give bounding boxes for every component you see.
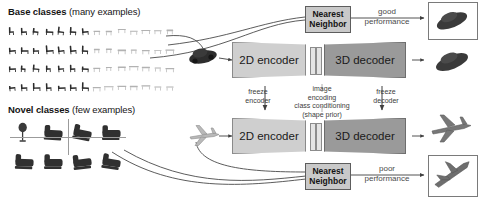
base-class-thumbnail: [79, 58, 91, 76]
base-class-thumbnail: [55, 58, 67, 76]
base-class-thumbnail: [91, 40, 103, 58]
base-class-thumbnail: [116, 58, 128, 76]
base-class-thumbnail: [164, 40, 176, 58]
base-class-thumbnail: [152, 77, 164, 95]
bottom-2d-encoder-box: 2D encoder: [232, 118, 306, 154]
base-classes-label-normal: (many examples): [69, 6, 140, 17]
image-encoding-line1: image: [286, 85, 358, 94]
base-class-thumbnail: [43, 58, 55, 76]
base-class-thumbnail: [79, 21, 91, 39]
base-class-thumbnail: [128, 21, 140, 39]
nearest-neighbor-bottom-line2: Neighbor: [309, 177, 346, 187]
novel-grid-divider-vertical: [68, 119, 69, 155]
base-class-thumbnail: [18, 58, 30, 76]
novel-class-thumbnail: [97, 148, 126, 177]
base-class-thumbnail: [6, 40, 18, 58]
base-class-thumbnail: [67, 21, 79, 39]
nearest-neighbor-top-box: Nearest Neighbor: [305, 6, 351, 33]
freeze-encoder-line2: encoder: [228, 97, 288, 106]
base-class-thumbnail: [103, 40, 115, 58]
class-conditioning-line2: (shape prior): [283, 111, 361, 120]
base-class-thumbnail: [67, 77, 79, 95]
figure-root: Base classes (many examples) Novel class…: [0, 0, 483, 200]
top-3d-decoder-box: 3D decoder: [324, 42, 406, 78]
base-class-thumbnail: [18, 77, 30, 95]
base-class-thumbnail: [116, 77, 128, 95]
base-class-thumbnail: [30, 77, 42, 95]
output-frame-airplane-nn: [428, 155, 478, 197]
freeze-encoder-line1: freeze: [228, 88, 288, 97]
base-class-thumbnail: [103, 77, 115, 95]
poor-performance-line2: performance: [352, 174, 422, 184]
base-class-thumbnail: [103, 58, 115, 76]
image-encoding-line2: encoding: [286, 94, 358, 103]
base-class-thumbnail: [55, 21, 67, 39]
nearest-neighbor-top-line2: Neighbor: [309, 20, 346, 30]
base-class-thumbnail: [91, 58, 103, 76]
novel-class-thumbnail: [68, 148, 97, 177]
novel-class-thumbnail: [39, 119, 68, 148]
output-object-car-decoder: [428, 44, 476, 78]
novel-class-thumbnail: [10, 119, 39, 148]
bottom-2d-encoder-label: 2D encoder: [239, 130, 298, 142]
base-class-thumbnail: [43, 21, 55, 39]
base-classes-grid: [6, 21, 176, 81]
novel-classes-label-normal: (few examples): [72, 104, 135, 115]
base-class-thumbnail: [140, 21, 152, 39]
freeze-decoder-line2: decoder: [356, 97, 416, 106]
top-3d-decoder-label: 3D decoder: [335, 54, 394, 66]
base-class-thumbnail: [55, 40, 67, 58]
base-class-thumbnail: [128, 77, 140, 95]
base-class-thumbnail: [67, 58, 79, 76]
base-class-thumbnail: [164, 58, 176, 76]
base-class-thumbnail: [91, 21, 103, 39]
top-2d-encoder-label: 2D encoder: [239, 54, 298, 66]
top-2d-encoder-box: 2D encoder: [232, 42, 306, 78]
freeze-decoder-annotation: freeze decoder: [356, 88, 416, 105]
novel-classes-heading: Novel classes (few examples): [8, 104, 135, 115]
base-class-thumbnail: [116, 40, 128, 58]
base-class-thumbnail: [30, 21, 42, 39]
base-class-thumbnail: [164, 77, 176, 95]
base-class-thumbnail: [128, 58, 140, 76]
good-performance-line1: good: [352, 7, 422, 17]
base-classes-label-bold: Base classes: [8, 6, 67, 17]
bottom-3d-decoder-box: 3D decoder: [324, 118, 406, 154]
bottom-latent-bar-right: [316, 123, 322, 151]
base-class-thumbnail: [140, 58, 152, 76]
base-class-thumbnail: [6, 21, 18, 39]
nearest-neighbor-bottom-box: Nearest Neighbor: [305, 163, 351, 190]
base-class-thumbnail: [6, 58, 18, 76]
novel-class-thumbnail: [68, 119, 97, 148]
base-class-thumbnail: [43, 77, 55, 95]
input-object-car: [186, 44, 222, 66]
base-class-thumbnail: [164, 21, 176, 39]
base-class-thumbnail: [67, 40, 79, 58]
base-class-thumbnail: [18, 21, 30, 39]
poor-performance-line1: poor: [352, 164, 422, 174]
base-class-thumbnail: [55, 77, 67, 95]
novel-classes-label-bold: Novel classes: [8, 104, 70, 115]
image-encoding-annotation: image encoding: [286, 85, 358, 102]
freeze-decoder-line1: freeze: [356, 88, 416, 97]
poor-performance-label: poor performance: [352, 164, 422, 183]
output-object-airplane-decoder: [426, 112, 476, 146]
base-class-thumbnail: [43, 40, 55, 58]
base-class-thumbnail: [103, 21, 115, 39]
good-performance-label: good performance: [352, 7, 422, 26]
base-class-thumbnail: [152, 40, 164, 58]
base-class-thumbnail: [152, 21, 164, 39]
base-class-thumbnail: [79, 77, 91, 95]
novel-class-thumbnail: [10, 148, 39, 177]
base-class-thumbnail: [140, 40, 152, 58]
base-class-thumbnail: [140, 77, 152, 95]
base-class-thumbnail: [18, 40, 30, 58]
base-class-thumbnail: [6, 77, 18, 95]
bottom-3d-decoder-label: 3D decoder: [335, 130, 394, 142]
output-frame-car-nn: [428, 2, 478, 40]
input-object-airplane: [186, 124, 222, 148]
class-conditioning-annotation: class conditioning (shape prior): [283, 102, 361, 119]
base-class-thumbnail: [30, 40, 42, 58]
base-class-thumbnail: [79, 40, 91, 58]
good-performance-line2: performance: [352, 17, 422, 27]
